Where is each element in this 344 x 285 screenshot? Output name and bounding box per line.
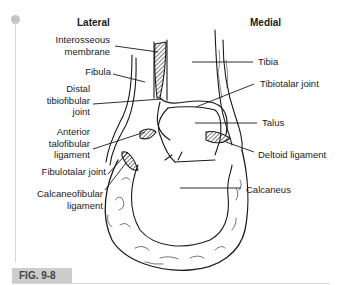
- figure-caption: FIG. 9-8: [12, 268, 72, 283]
- ankle-joint-diagram: [0, 0, 344, 285]
- bottom-divider: [12, 283, 330, 284]
